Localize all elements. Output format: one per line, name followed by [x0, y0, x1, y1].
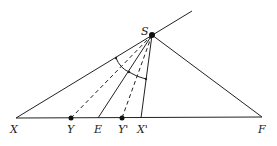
arc-tick-2 [128, 71, 130, 73]
label-Xprime: X' [136, 123, 148, 136]
arc-tick-3 [145, 78, 147, 80]
label-F: F [257, 123, 266, 136]
label-Y: Y [67, 123, 76, 136]
line-XF [16, 117, 262, 118]
point-Y-dot [69, 116, 74, 121]
point-Yprime-dot [120, 116, 125, 121]
line-XS-ray [16, 11, 192, 118]
arc-tick-1 [115, 57, 117, 59]
line-SY-dashed [71, 35, 152, 118]
label-Yprime: Y' [118, 123, 128, 136]
angle-arc [116, 58, 146, 79]
label-E: E [93, 123, 102, 136]
label-S: S [141, 25, 149, 38]
line-SXprime [141, 35, 152, 118]
line-SE [98, 35, 152, 118]
label-X: X [9, 123, 19, 136]
line-SF [152, 35, 262, 117]
geometry-diagram: S X Y E Y' X' F [0, 0, 277, 146]
point-S-dot [149, 32, 155, 38]
